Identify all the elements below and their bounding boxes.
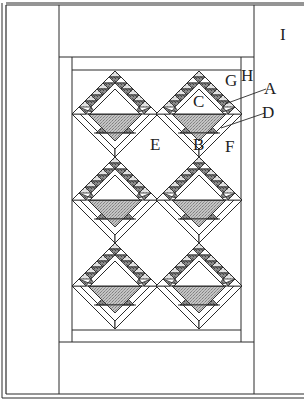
label-G: G — [225, 72, 237, 89]
basket-block-3 — [72, 157, 158, 243]
label-D: D — [262, 104, 274, 121]
basket-block-1 — [72, 71, 158, 157]
label-C: C — [193, 93, 204, 110]
label-A: A — [264, 80, 276, 97]
basket-block-6 — [156, 243, 242, 329]
label-H: H — [241, 67, 253, 84]
label-E: E — [150, 136, 160, 153]
label-B: B — [193, 136, 204, 153]
quilt-diagram — [0, 0, 304, 405]
basket-block-4 — [156, 157, 242, 243]
basket-block-5 — [72, 243, 158, 329]
basket-blocks — [72, 71, 242, 329]
label-I: I — [280, 26, 286, 43]
label-F: F — [225, 138, 234, 155]
